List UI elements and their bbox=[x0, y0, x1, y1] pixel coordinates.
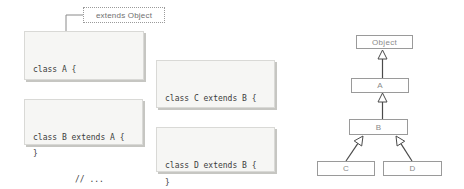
uml-node-a-label: A bbox=[377, 81, 383, 90]
uml-node-c-label: C bbox=[343, 164, 349, 173]
uml-node-d-label: D bbox=[409, 164, 415, 173]
code-box-class-c: class C extends B { // ... } bbox=[156, 60, 275, 108]
uml-edge-c-b-line bbox=[346, 143, 358, 161]
code-line: class D extends B { bbox=[165, 159, 274, 173]
uml-edge-a-object-arrowhead-icon bbox=[378, 50, 387, 59]
uml-node-b-label: B bbox=[376, 123, 382, 132]
uml-edge-d-b-line bbox=[401, 144, 412, 161]
uml-edge-d-b-arrowhead-icon bbox=[396, 136, 405, 146]
uml-edge-b-a-arrowhead-icon bbox=[378, 93, 387, 102]
uml-node-a: A bbox=[351, 78, 409, 93]
code-box-class-b: class B extends A { // ... } bbox=[24, 99, 143, 145]
code-line: // ... bbox=[33, 173, 142, 187]
uml-node-d: D bbox=[383, 161, 442, 176]
uml-edge-c-b-arrowhead-icon bbox=[354, 136, 363, 146]
uml-node-object-label: Object bbox=[372, 38, 397, 47]
uml-node-object: Object bbox=[356, 35, 413, 49]
uml-node-c: C bbox=[317, 161, 375, 176]
extends-object-callout-label: extends Object bbox=[96, 11, 152, 20]
extends-object-callout: extends Object bbox=[83, 7, 165, 23]
uml-node-b: B bbox=[349, 119, 408, 135]
code-line: class B extends A { bbox=[33, 131, 142, 145]
code-box-class-a: class A { // ... } bbox=[24, 31, 144, 80]
code-line: class C extends B { bbox=[165, 92, 274, 106]
code-line: class A { bbox=[33, 63, 143, 77]
code-box-class-d: class D extends B { // ... } bbox=[156, 127, 275, 172]
inheritance-figure: extends Object class A { // ... } class … bbox=[0, 0, 464, 189]
